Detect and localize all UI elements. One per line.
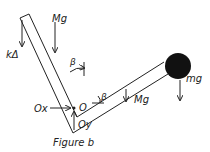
angle-upper-label: β — [69, 57, 76, 67]
diagram-svg: kΔ Mg β β Mg mg O Ox Oy Figure b — [0, 0, 210, 152]
reaction-y-label: Oy — [78, 119, 93, 130]
arm-weight-lower-label: Mg — [134, 94, 149, 105]
pivot-point — [73, 107, 76, 110]
arm-weight-upper-label: Mg — [52, 13, 67, 24]
figure-caption: Figure b — [53, 137, 94, 148]
pivot-label: O — [79, 102, 87, 113]
angle-lower-label: β — [100, 92, 107, 102]
ball-weight-label: mg — [186, 73, 202, 84]
reaction-x-label: Ox — [34, 103, 48, 114]
bent-bar — [20, 14, 168, 133]
free-body-diagram: kΔ Mg β β Mg mg O Ox Oy Figure b — [0, 0, 210, 152]
spring-force-label: kΔ — [6, 49, 19, 60]
